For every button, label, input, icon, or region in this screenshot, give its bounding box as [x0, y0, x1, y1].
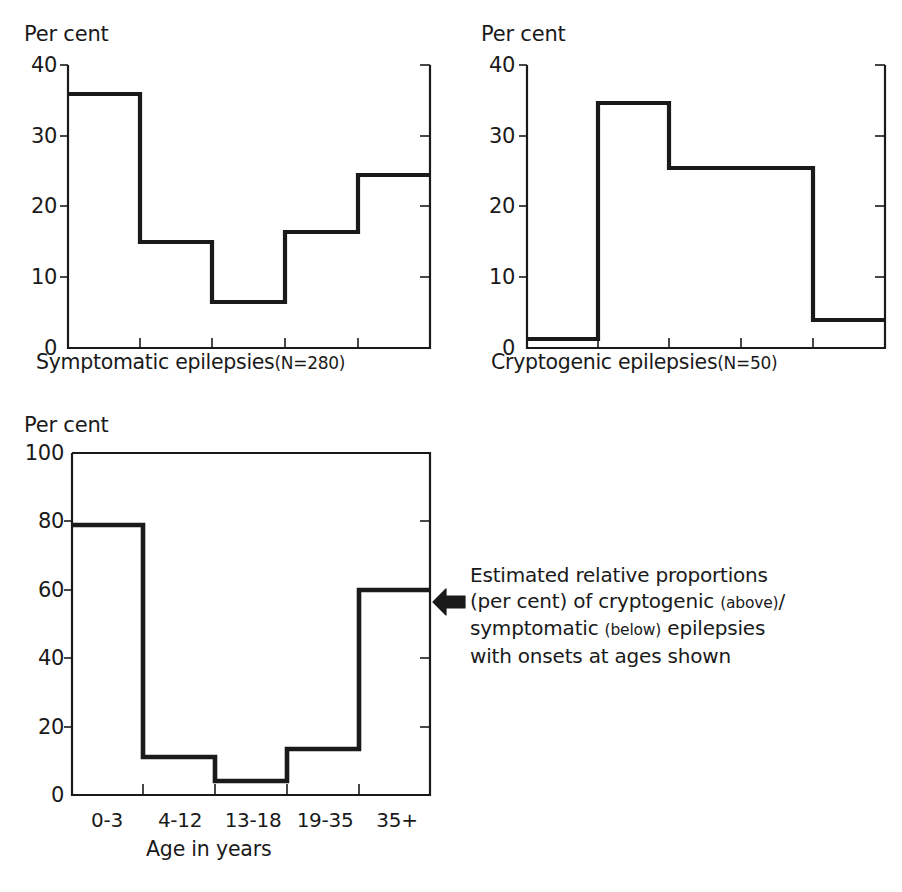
y-axis-ticks	[60, 65, 68, 277]
caption-n-text: (N=50)	[717, 353, 777, 373]
annotation-line-2-b: /	[778, 589, 785, 613]
left-arrow-icon	[432, 587, 466, 617]
annotation-text: Estimated relative proportions (per cent…	[470, 563, 890, 669]
data-step-outline	[72, 525, 430, 781]
panel-caption-symptomatic: Symptomatic epilepsies(N=280)	[36, 350, 345, 374]
annotation-line-3-small: (below)	[605, 621, 662, 639]
annotation-line-3-b: epilepsies	[661, 616, 765, 640]
data-step-outline	[527, 103, 885, 339]
annotation-line-2: (per cent) of cryptogenic (above)/	[470, 589, 890, 617]
x-axis-ticks	[598, 338, 813, 348]
ytick-label: 60	[38, 578, 64, 602]
xtick-label: 19-35	[297, 808, 354, 832]
plot-cryptogenic: 40 30 20 10 0	[459, 0, 902, 365]
ytick-label: 0	[51, 783, 64, 807]
ytick-label: 30	[31, 124, 57, 148]
caption-n-text: (N=280)	[274, 353, 345, 373]
plot-combined: 100 80 60 40 20 0	[0, 395, 450, 855]
x-axis-ticks	[143, 784, 359, 795]
annotation-line-2-a: (per cent) of cryptogenic	[470, 589, 720, 613]
ytick-label: 80	[38, 509, 64, 533]
panel-caption-cryptogenic: Cryptogenic epilepsies(N=50)	[491, 350, 777, 374]
x-axis-title: Age in years	[146, 837, 271, 861]
axes-frame	[72, 453, 430, 795]
ytick-label: 40	[31, 53, 57, 77]
ytick-label: 100	[25, 441, 64, 465]
annotation-line-3-a: symptomatic	[470, 616, 605, 640]
ytick-label: 40	[489, 53, 515, 77]
annotation-line-2-small: (above)	[720, 594, 778, 612]
chart-panel-symptomatic: Per cent 40 30 20 10 0	[0, 0, 450, 392]
axes-frame	[527, 65, 885, 348]
ytick-label: 20	[489, 194, 515, 218]
chart-panel-combined: Per cent 100 80 60 40 20 0	[0, 395, 450, 855]
ytick-label: 10	[489, 265, 515, 289]
data-step-outline	[68, 94, 430, 302]
xtick-label: 35+	[376, 808, 417, 832]
y-axis-ticks	[64, 521, 72, 727]
axes-frame	[68, 65, 430, 348]
ytick-label: 20	[38, 715, 64, 739]
xtick-label: 13-18	[225, 808, 282, 832]
y-axis-ticks	[519, 65, 527, 277]
figure-root: Per cent 40 30 20 10 0	[0, 0, 902, 892]
xtick-label: 4-12	[158, 808, 202, 832]
y-axis-ticks-right	[875, 65, 885, 277]
annotation-line-3: symptomatic (below) epilepsies	[470, 616, 890, 644]
ytick-label: 40	[38, 646, 64, 670]
chart-panel-cryptogenic: Per cent 40 30 20 10 0	[459, 0, 902, 392]
annotation-block: Estimated relative proportions (per cent…	[470, 563, 890, 669]
ytick-label: 20	[31, 194, 57, 218]
caption-main-text: Cryptogenic epilepsies	[491, 350, 717, 374]
annotation-line-1: Estimated relative proportions	[470, 563, 890, 589]
caption-main-text: Symptomatic epilepsies	[36, 350, 274, 374]
plot-symptomatic: 40 30 20 10 0	[0, 0, 450, 365]
y-axis-ticks-right	[420, 521, 430, 727]
ytick-label: 30	[489, 124, 515, 148]
x-axis-ticks	[140, 338, 358, 348]
y-axis-ticks-right	[420, 65, 430, 277]
ytick-label: 10	[31, 265, 57, 289]
annotation-line-4: with onsets at ages shown	[470, 644, 890, 670]
xtick-label: 0-3	[91, 808, 123, 832]
